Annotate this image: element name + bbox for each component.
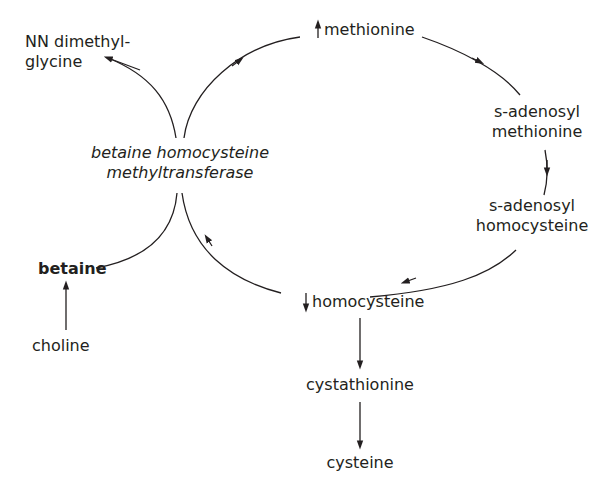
pathway-arrows [0,0,605,497]
node-label: glycine [25,52,130,72]
node-label: homocysteine [462,216,602,236]
node-label: methionine [324,20,415,39]
node-homocysteine: homocysteine [312,292,424,312]
node-label: betaine [38,259,106,278]
node-label: s-adenosyl [462,196,602,216]
node-s-adenosyl-homocysteine: s-adenosyl homocysteine [462,196,602,236]
arrow-homocysteine-to-enzyme [182,193,281,293]
arrow-methionine-to-sam [422,37,520,95]
node-betaine: betaine [38,259,106,279]
arrow-enzyme-to-methionine [184,37,300,138]
node-label: s-adenosyl [472,102,602,122]
enzyme-label: betaine homocysteine [60,143,300,163]
arrow-sam-to-sah [544,150,547,195]
node-label: choline [32,336,90,355]
enzyme-label: methyltransferase [60,163,300,183]
node-cystathionine: cystathionine [290,375,430,395]
node-cysteine: cysteine [300,453,420,473]
node-label: homocysteine [312,292,424,311]
node-label: methionine [472,122,602,142]
node-methionine: methionine [324,20,415,40]
node-nn-dimethylglycine: NN dimethyl- glycine [25,32,130,72]
node-choline: choline [32,336,90,356]
node-enzyme-bhmt: betaine homocysteine methyltransferase [60,143,300,183]
node-label: cystathionine [306,375,414,394]
methionine-cycle-diagram: NN dimethyl- glycine methionine s-adenos… [0,0,605,497]
node-label: NN dimethyl- [25,32,130,52]
arrow-betaine-to-enzyme [96,193,177,268]
node-s-adenosyl-methionine: s-adenosyl methionine [472,102,602,142]
node-label: cysteine [326,453,393,472]
arrow-sah-to-homocysteine [370,250,516,297]
